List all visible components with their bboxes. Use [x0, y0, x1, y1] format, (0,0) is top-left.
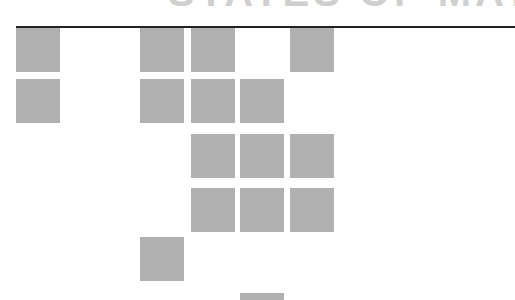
grid-cell	[191, 134, 235, 178]
grid-cell	[140, 28, 184, 72]
grid-cell	[290, 188, 334, 232]
grid-cell	[290, 28, 334, 72]
grid-cell	[191, 79, 235, 123]
grid-cell	[290, 134, 334, 178]
grid-cell	[240, 188, 284, 232]
grid-cell	[16, 79, 60, 123]
grid-cell	[240, 79, 284, 123]
grid-cell	[191, 28, 235, 72]
grid-cell	[140, 237, 184, 281]
grid-cell	[240, 134, 284, 178]
grid-cell	[191, 188, 235, 232]
grid-cell	[16, 28, 60, 72]
square-grid	[0, 0, 515, 300]
grid-cell	[140, 79, 184, 123]
grid-cell	[240, 293, 284, 300]
